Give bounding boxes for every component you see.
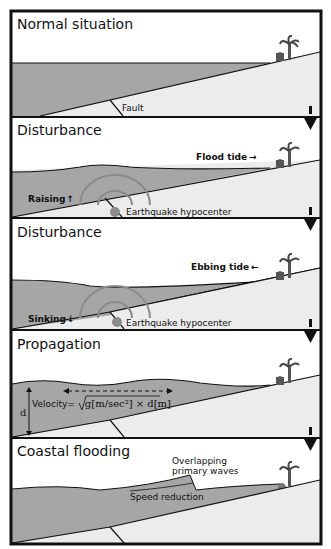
- house-icon: [276, 376, 284, 385]
- house-icon: [276, 159, 284, 168]
- house-icon: [276, 52, 284, 61]
- hypocenter-label: Earthquake hypocenter: [126, 318, 232, 328]
- panel-title: Disturbance: [17, 122, 102, 138]
- hypocenter-dot: [110, 207, 120, 217]
- tsunami-diagram: Normal situation Fault Disturbance Flood…: [0, 0, 331, 549]
- panel-title: Normal situation: [17, 16, 133, 32]
- panel-title: Propagation: [17, 336, 101, 352]
- fault-label: Fault: [122, 103, 144, 113]
- overlap-label: primary waves: [172, 466, 239, 476]
- speed-reduction-label: Speed reduction: [130, 492, 204, 502]
- hypocenter-dot: [112, 317, 122, 327]
- motion-label: Sinking↓: [28, 314, 74, 324]
- house-icon: [276, 271, 284, 280]
- tide-label: Ebbing tide←: [191, 262, 259, 272]
- motion-label: Raising↑: [28, 194, 74, 204]
- velocity-formula: Velocity=g[m/sec²] × d[m]: [32, 398, 171, 409]
- overlap-label: Overlapping: [172, 456, 227, 466]
- panel-title: Disturbance: [17, 224, 102, 240]
- depth-label: d: [20, 407, 27, 418]
- hypocenter-label: Earthquake hypocenter: [126, 207, 232, 217]
- panel-title: Coastal flooding: [17, 443, 130, 459]
